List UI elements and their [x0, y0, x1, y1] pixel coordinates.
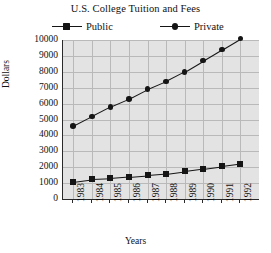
legend-marker-circle-icon — [160, 20, 190, 32]
legend-label-private: Private — [194, 21, 224, 32]
y-axis-tick-label: 6000 — [4, 99, 62, 109]
gridline-vertical — [240, 40, 241, 199]
x-axis-tick-label: 1983 — [76, 183, 86, 202]
y-axis-tick-label: 9000 — [4, 51, 62, 61]
x-axis-tick-mark — [91, 200, 92, 203]
chart-figure: U.S. College Tuition and Fees Public Pri… — [0, 0, 271, 253]
gridline-vertical — [203, 40, 204, 199]
chart-legend: Public Private — [38, 19, 262, 33]
x-axis-tick-label: 1990 — [206, 183, 216, 202]
gridline-vertical — [92, 40, 93, 199]
x-axis-tick-label: 1988 — [169, 183, 179, 202]
chart-title: U.S. College Tuition and Fees — [0, 3, 271, 14]
x-axis-tick-label: 1986 — [132, 183, 142, 202]
x-axis-tick-mark — [109, 200, 110, 203]
y-axis-tick-label: 5000 — [4, 115, 62, 125]
y-axis-tick-label: 7000 — [4, 83, 62, 93]
gridline-vertical — [166, 40, 167, 199]
legend-item-public: Public — [52, 19, 113, 33]
x-axis-tick-labels: 1983198419851986198719881989199019911992 — [62, 200, 258, 234]
legend-marker-square-icon — [52, 20, 82, 32]
x-axis-tick-mark — [147, 200, 148, 203]
y-axis-tick-label: 2000 — [4, 162, 62, 172]
x-axis-tick-label: 1985 — [113, 183, 123, 202]
x-axis-tick-mark — [128, 200, 129, 203]
gridline-vertical — [110, 40, 111, 199]
gridline-vertical — [129, 40, 130, 199]
y-axis-tick-label: 10000 — [4, 35, 62, 45]
x-axis-tick-label: 1992 — [243, 183, 253, 202]
gridline-vertical — [185, 40, 186, 199]
x-axis-tick-label: 1991 — [225, 183, 235, 202]
y-axis-tick-label: 1000 — [4, 178, 62, 188]
legend-label-public: Public — [86, 21, 113, 32]
x-axis-tick-mark — [72, 200, 73, 203]
x-axis-tick-label: 1984 — [95, 183, 105, 202]
y-axis-tick-labels: 0100020003000400050006000700080009000100… — [0, 40, 62, 199]
x-axis-tick-mark — [165, 200, 166, 203]
y-axis-tick-label: 0 — [4, 194, 62, 204]
gridline-vertical — [73, 40, 74, 199]
gridline-vertical — [148, 40, 149, 199]
x-axis-title: Years — [0, 236, 271, 246]
x-axis-tick-mark — [221, 200, 222, 203]
gridline-vertical — [222, 40, 223, 199]
plot-grid — [63, 40, 259, 199]
x-axis-tick-mark — [239, 200, 240, 203]
legend-item-private: Private — [160, 19, 224, 33]
x-axis-tick-mark — [184, 200, 185, 203]
y-axis-tick-label: 4000 — [4, 130, 62, 140]
plot-area — [62, 40, 259, 200]
x-axis-tick-mark — [202, 200, 203, 203]
y-axis-tick-label: 8000 — [4, 67, 62, 77]
y-axis-tick-label: 3000 — [4, 146, 62, 156]
x-axis-tick-label: 1987 — [151, 183, 161, 202]
x-axis-tick-label: 1989 — [188, 183, 198, 202]
